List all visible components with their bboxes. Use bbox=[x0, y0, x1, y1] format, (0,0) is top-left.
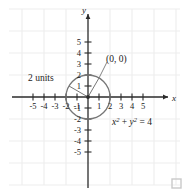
y-tick-label: 3 bbox=[77, 59, 81, 69]
y-tick-label: -5 bbox=[74, 147, 81, 157]
x-tick-label: 5 bbox=[141, 101, 145, 111]
x-axis bbox=[12, 95, 168, 100]
origin-point bbox=[86, 95, 90, 99]
x-tick-label: 2 bbox=[108, 101, 112, 111]
center-annotation: (0, 0) bbox=[106, 54, 127, 65]
equation-annotation: x2 + y2 = 4 bbox=[111, 116, 152, 127]
y-tick-label: -1 bbox=[74, 103, 81, 113]
y-axis bbox=[86, 14, 91, 188]
x-tick-label: 1 bbox=[97, 101, 101, 111]
x-tick-label: 4 bbox=[130, 101, 135, 111]
y-axis-arrow bbox=[86, 14, 91, 19]
y-tick-label: -4 bbox=[74, 136, 82, 146]
y-tick-label: 1 bbox=[77, 81, 81, 91]
y-tick-label: 5 bbox=[77, 37, 81, 47]
coordinate-plane-figure: x y -5 -4 -3 -2 -1 1 2 3 4 5 5 4 3 2 1 -… bbox=[0, 0, 187, 196]
x-tick-label: 3 bbox=[119, 101, 123, 111]
y-axis-label: y bbox=[81, 5, 86, 15]
x-tick-label: -5 bbox=[29, 101, 36, 111]
radius-segment-right bbox=[88, 78, 99, 97]
x-axis-arrow bbox=[163, 95, 168, 100]
y-tick-label: -2 bbox=[74, 114, 81, 124]
center-label-leader bbox=[99, 62, 107, 78]
y-tick-label: 2 bbox=[77, 70, 81, 80]
graph-canvas: x y -5 -4 -3 -2 -1 1 2 3 4 5 5 4 3 2 1 -… bbox=[0, 0, 187, 196]
x-tick-label: -3 bbox=[51, 101, 58, 111]
x-tick-labels: -5 -4 -3 -2 -1 1 2 3 4 5 bbox=[29, 101, 145, 111]
x-tick-label: -4 bbox=[40, 101, 48, 111]
x-axis-label: x bbox=[171, 93, 176, 103]
y-tick-label: -3 bbox=[74, 125, 81, 135]
radius-annotation: 2 units bbox=[28, 73, 54, 83]
x-tick-label: -2 bbox=[62, 101, 69, 111]
